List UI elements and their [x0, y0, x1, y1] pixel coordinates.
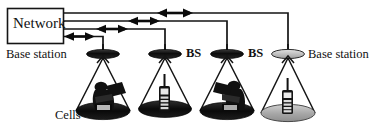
backhaul-link-3[interactable]	[64, 25, 166, 52]
cells-label: Cells	[55, 109, 81, 122]
network-label: Network	[13, 16, 66, 31]
base-station-4[interactable]	[272, 44, 305, 63]
antenna-disc-1	[87, 49, 120, 58]
bs-2-label: BS	[248, 47, 263, 60]
bs-1-label: BS	[186, 47, 201, 60]
link-4-double-arrow	[64, 32, 95, 40]
base-station-3[interactable]	[211, 44, 244, 63]
base-station-left-label: Base station	[6, 48, 67, 61]
diagram-canvas: Network Base station BS BS Base station …	[0, 0, 373, 129]
base-station-2[interactable]	[149, 44, 182, 63]
base-station-1[interactable]	[87, 44, 120, 63]
device-mobile-handset-4	[282, 78, 293, 114]
base-station-right-label: Base station	[308, 48, 369, 61]
link-3-double-arrow	[96, 25, 128, 33]
antenna-disc-4	[272, 49, 305, 58]
backhaul-link-4[interactable]	[64, 32, 104, 52]
link-2-double-arrow	[128, 17, 160, 25]
antenna-disc-2	[149, 49, 182, 58]
link-1-double-arrow	[157, 9, 193, 18]
antenna-disc-3	[211, 49, 244, 58]
link-3-path	[64, 29, 166, 52]
device-mobile-handset-2	[159, 74, 170, 112]
